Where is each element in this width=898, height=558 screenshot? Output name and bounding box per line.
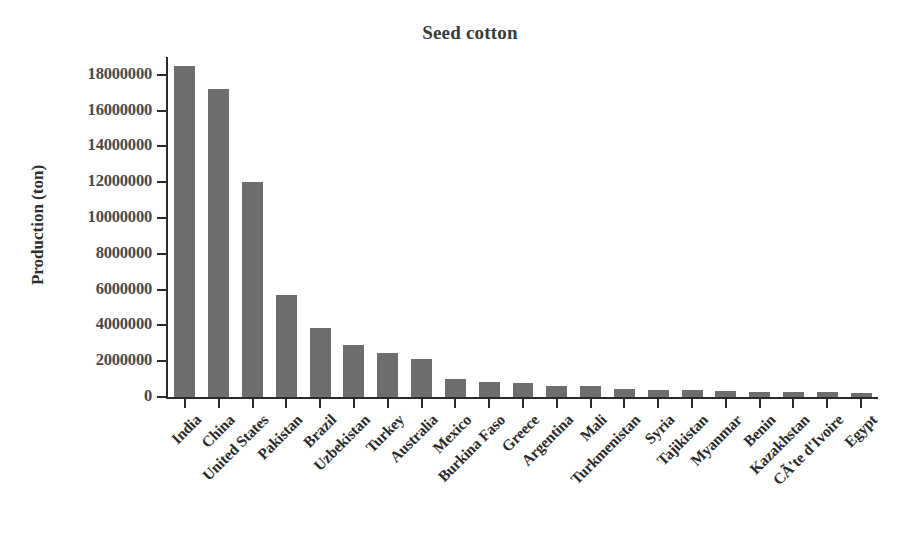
y-axis-tick-label: 8000000 — [96, 243, 152, 263]
bar — [682, 390, 703, 397]
y-axis-tick — [157, 110, 166, 112]
y-axis-tick-label: 2000000 — [96, 350, 152, 370]
bar — [546, 386, 567, 397]
y-axis-tick — [157, 396, 166, 398]
bar — [580, 386, 601, 397]
bar — [614, 389, 635, 397]
bar — [513, 383, 534, 397]
y-axis-line — [166, 57, 168, 399]
y-axis-tick-label: 18000000 — [88, 64, 152, 84]
y-axis-tick — [157, 145, 166, 147]
x-axis-tick-label: India — [168, 411, 205, 448]
bar — [749, 392, 770, 397]
bar — [648, 390, 669, 397]
y-axis-tick-label: 4000000 — [96, 314, 152, 334]
y-axis-tick — [157, 74, 166, 76]
y-axis-tick — [157, 253, 166, 255]
bar — [242, 182, 263, 397]
y-axis-tick-label: 6000000 — [96, 279, 152, 299]
bar — [479, 382, 500, 397]
y-axis-tick — [157, 324, 166, 326]
bar — [851, 393, 872, 397]
y-axis-tick-label: 14000000 — [88, 135, 152, 155]
y-axis-tick — [157, 289, 166, 291]
bar — [445, 379, 466, 397]
bar — [715, 391, 736, 397]
y-axis-tick-label: 10000000 — [88, 207, 152, 227]
bar-chart: Seed cotton Production (ton) 02000000400… — [0, 0, 898, 558]
bar — [377, 353, 398, 397]
y-axis-tick-labels: 0200000040000006000000800000010000000120… — [0, 57, 152, 399]
y-axis-tick-label: 12000000 — [88, 171, 152, 191]
bar — [411, 359, 432, 397]
y-axis-tick — [157, 181, 166, 183]
bar — [310, 328, 331, 397]
x-axis-tick-label: Egypt — [841, 411, 881, 451]
bar — [343, 345, 364, 397]
bar — [783, 392, 804, 397]
y-axis-tick — [157, 360, 166, 362]
bar — [174, 66, 195, 397]
x-axis-tick-labels: IndiaChinaUnited StatesPakistanBrazilUzb… — [166, 399, 896, 558]
y-axis-tick-label: 0 — [144, 386, 152, 406]
bar — [276, 295, 297, 397]
plot-area — [166, 57, 876, 399]
bar — [208, 89, 229, 397]
chart-title: Seed cotton — [21, 22, 898, 44]
bar — [817, 392, 838, 397]
y-axis-tick — [157, 217, 166, 219]
y-axis-tick-label: 16000000 — [88, 100, 152, 120]
